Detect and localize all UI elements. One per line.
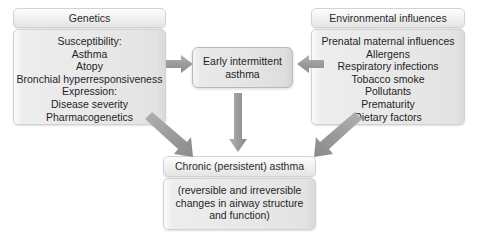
chronic-line: (reversible and irreversible [164,184,315,197]
environmental-influences-panel: Environmental influences Prenatal matern… [311,8,465,125]
arrow-environment-to-early-icon [296,54,324,74]
early-intermittent-asthma-node: Early intermittent asthma [192,47,293,88]
early-intermittent-asthma-label: Early intermittent asthma [192,47,293,88]
environmental-influences-panel-body: Prenatal maternal influences Allergens R… [311,29,465,125]
genetics-line: Asthma [14,48,165,61]
arrow-early-to-chronic-icon [228,93,248,153]
genetics-line: Bronchial hyperresponsiveness [14,73,165,86]
environment-line: Tobacco smoke [312,73,464,86]
genetics-panel-header: Genetics [13,8,166,28]
arrow-genetics-to-chronic-icon [145,112,207,160]
arrow-genetics-to-early-icon [166,54,194,74]
chronic-line: changes in airway structure [164,197,315,210]
genetics-panel: Genetics Susceptibility: Asthma Atopy Br… [13,8,166,125]
environment-line: Prematurity [312,98,464,111]
chronic-asthma-panel: Chronic (persistent) asthma (reversible … [163,156,316,230]
asthma-pathogenesis-diagram: Genetics Susceptibility: Asthma Atopy Br… [0,0,477,235]
genetics-line: Disease severity [14,98,165,111]
genetics-line: Expression: [14,85,165,98]
chronic-asthma-panel-body: (reversible and irreversible changes in … [163,178,316,230]
environment-line: Pollutants [312,85,464,98]
genetics-line: Atopy [14,60,165,73]
environment-line: Respiratory infections [312,60,464,73]
environment-line: Allergens [312,48,464,61]
environmental-influences-panel-header: Environmental influences [311,8,465,28]
genetics-panel-body: Susceptibility: Asthma Atopy Bronchial h… [13,29,166,125]
genetics-line: Pharmacogenetics [14,111,165,124]
arrow-environment-to-chronic-icon [307,112,369,160]
environment-line: Prenatal maternal influences [312,35,464,48]
chronic-line: and function) [164,209,315,222]
genetics-line: Susceptibility: [14,35,165,48]
